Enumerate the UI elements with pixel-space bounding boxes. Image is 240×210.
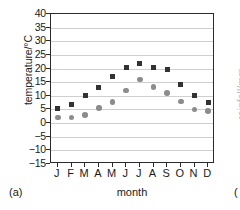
data-point-square bbox=[83, 93, 88, 98]
y-axis-tick-label: 15 bbox=[6, 76, 46, 87]
temperature-scatter-figure: temperature/°C −15−10−50510152025303540 … bbox=[0, 0, 240, 210]
gridline bbox=[51, 123, 213, 124]
y-axis-tick-label: −5 bbox=[6, 131, 46, 142]
gridline bbox=[51, 55, 213, 56]
data-point-circle bbox=[205, 108, 211, 114]
adjacent-panel-y-axis-title: rainfall/mm bbox=[235, 49, 240, 139]
y-axis-tick-label: 10 bbox=[6, 90, 46, 101]
y-axis-tick-mark bbox=[46, 163, 50, 164]
data-point-square bbox=[124, 65, 129, 70]
panel-label-a: (a) bbox=[9, 186, 22, 198]
data-point-circle bbox=[110, 99, 116, 105]
data-point-circle bbox=[164, 90, 170, 96]
data-point-square bbox=[165, 67, 170, 72]
gridline bbox=[51, 82, 213, 83]
data-point-circle bbox=[178, 99, 184, 105]
data-point-circle bbox=[123, 88, 129, 94]
data-point-square bbox=[137, 61, 142, 66]
gridline bbox=[51, 137, 213, 138]
gridline bbox=[51, 41, 213, 42]
y-axis-tick-label: 20 bbox=[6, 63, 46, 74]
x-axis-tick-label: D bbox=[199, 168, 215, 179]
data-point-square bbox=[151, 65, 156, 70]
gridline bbox=[51, 96, 213, 97]
y-axis-tick-label: 5 bbox=[6, 103, 46, 114]
y-axis-tick-label: −10 bbox=[6, 144, 46, 155]
data-point-circle bbox=[96, 105, 102, 111]
data-point-square bbox=[110, 74, 115, 79]
y-axis-tick-label: 30 bbox=[6, 35, 46, 46]
data-point-square bbox=[55, 106, 60, 111]
x-axis-title: month bbox=[50, 186, 214, 198]
data-point-square bbox=[206, 100, 211, 105]
y-axis-tick-label: 35 bbox=[6, 22, 46, 33]
y-axis-tick-label: −15 bbox=[6, 158, 46, 169]
panel-label-b: ( bbox=[234, 186, 238, 198]
gridline bbox=[51, 150, 213, 151]
data-point-square bbox=[192, 93, 197, 98]
data-point-circle bbox=[151, 84, 157, 90]
data-point-square bbox=[96, 85, 101, 90]
data-point-square bbox=[178, 82, 183, 87]
data-point-circle bbox=[55, 115, 61, 121]
y-axis-tick-label: 0 bbox=[6, 117, 46, 128]
y-axis-tick-label: 40 bbox=[6, 8, 46, 19]
gridline bbox=[51, 28, 213, 29]
y-axis-tick-label: 25 bbox=[6, 49, 46, 60]
data-point-square bbox=[69, 102, 74, 107]
gridline-group bbox=[51, 14, 213, 162]
plot-area bbox=[50, 13, 214, 163]
gridline bbox=[51, 109, 213, 110]
data-point-circle bbox=[137, 77, 143, 83]
data-point-circle bbox=[82, 112, 88, 118]
gridline bbox=[51, 69, 213, 70]
